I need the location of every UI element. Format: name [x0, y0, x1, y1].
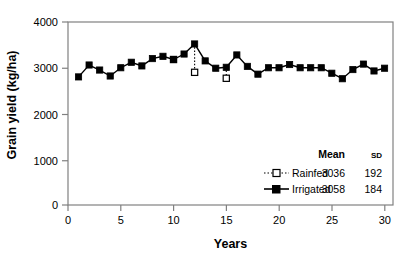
data-point-irrigated [107, 73, 113, 79]
y-tick-label-4000: 4000 [34, 16, 58, 28]
legend-mean-irrigated: 3058 [322, 183, 346, 195]
data-point-irrigated [297, 65, 303, 71]
plot-area: 4000 3000 2000 1000 0 0 5 10 15 20 25 30… [0, 0, 409, 263]
data-point-irrigated [308, 65, 314, 71]
x-tick-label-15: 15 [220, 214, 232, 226]
y-tick-label-3000: 3000 [34, 62, 58, 74]
legend-marker-rainfed [273, 170, 280, 177]
data-point-irrigated [350, 66, 356, 72]
data-point-irrigated [329, 70, 335, 76]
legend-row-rainfed: Rainfed 3036 192 [264, 167, 382, 179]
data-point-irrigated [170, 56, 176, 62]
legend-header-sd: SD [371, 151, 382, 160]
data-point-irrigated [118, 65, 124, 71]
legend-marker-irrigated [273, 186, 281, 194]
x-tick-label-30: 30 [379, 214, 391, 226]
x-tick-label-20: 20 [273, 214, 285, 226]
data-point-irrigated [255, 71, 261, 77]
data-point-irrigated [202, 58, 208, 64]
data-point-irrigated [86, 62, 92, 68]
legend-sd-rainfed: 192 [364, 167, 382, 179]
data-point-irrigated [339, 76, 345, 82]
data-point-irrigated [276, 65, 282, 71]
data-point-irrigated [149, 56, 155, 62]
chart-figure: Grain yield (kg/ha) Years 4000 3000 2000… [0, 0, 409, 263]
x-axis-ticks [68, 205, 385, 211]
data-point-irrigated [234, 52, 240, 58]
data-point-irrigated [181, 51, 187, 57]
data-point-irrigated [371, 68, 377, 74]
x-tick-label-5: 5 [118, 214, 124, 226]
legend-sd-irrigated: 184 [364, 183, 382, 195]
y-tick-label-1000: 1000 [34, 155, 58, 167]
data-point-irrigated [192, 41, 198, 47]
data-point-irrigated [160, 53, 166, 59]
data-point-irrigated [244, 63, 250, 69]
legend-header-mean: Mean [318, 148, 345, 160]
legend-row-irrigated: Irrigated 3058 184 [264, 183, 382, 195]
line-irrigated [79, 44, 385, 79]
x-tick-label-0: 0 [65, 214, 71, 226]
data-point-irrigated [286, 61, 292, 67]
data-point-rainfed [192, 69, 198, 75]
data-point-irrigated [139, 63, 145, 69]
series-irrigated [75, 41, 387, 82]
data-point-irrigated [381, 65, 387, 71]
data-point-irrigated [265, 65, 271, 71]
x-tick-label-10: 10 [167, 214, 179, 226]
legend-mean-rainfed: 3036 [322, 167, 346, 179]
data-point-irrigated [97, 67, 103, 73]
data-point-irrigated [360, 61, 366, 67]
y-tick-label-2000: 2000 [34, 109, 58, 121]
y-tick-label-0: 0 [52, 199, 58, 211]
series-rainfed [170, 44, 229, 81]
data-point-irrigated [223, 64, 229, 70]
data-point-irrigated [318, 65, 324, 71]
data-point-irrigated [213, 65, 219, 71]
y-axis-ticks [62, 22, 68, 205]
data-point-rainfed [223, 75, 229, 81]
chart-legend: Mean SD Rainfed 3036 192 Irrigated 3058 … [264, 148, 382, 195]
data-point-irrigated [75, 74, 81, 80]
x-tick-label-25: 25 [326, 214, 338, 226]
data-point-irrigated [128, 59, 134, 65]
